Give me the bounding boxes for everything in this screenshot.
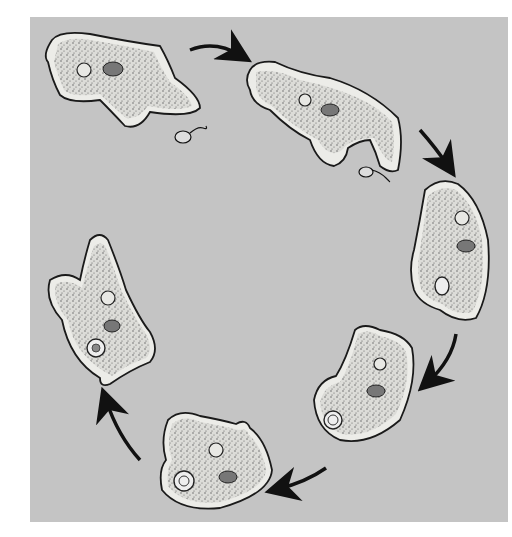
amoeba-stage-1	[46, 33, 200, 127]
amoeba-stage-4	[314, 326, 414, 441]
arrow-5-to-6	[106, 400, 140, 460]
arrow-1-to-2	[190, 46, 240, 55]
arrow-4-to-5	[278, 468, 326, 489]
phagocytosis-diagram	[0, 0, 512, 537]
contractile-vacuole	[77, 63, 91, 77]
amoeba-stage-5	[161, 413, 272, 509]
arrow-3-to-4	[428, 334, 456, 382]
food-vacuole	[435, 277, 449, 295]
flagellate-prey-1	[175, 126, 207, 143]
amoeba-stage-2	[247, 62, 401, 172]
amoeba-stage-6	[49, 235, 156, 385]
nucleus	[103, 62, 123, 76]
amoeba-stage-3	[411, 181, 489, 320]
arrow-2-to-3	[420, 130, 448, 166]
